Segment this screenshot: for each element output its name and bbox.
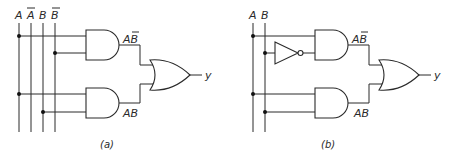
circuit-a: A A B B AB AB y (a) [14, 8, 212, 150]
junction-dot [251, 34, 255, 38]
junction-dot [53, 51, 57, 55]
junction-dot [263, 51, 267, 55]
or-gate [379, 60, 419, 90]
wire-and2-to-or [119, 84, 155, 103]
junction-dot [17, 92, 21, 96]
input-label-a: A [14, 9, 23, 22]
logic-circuit-diagram: A A B B AB AB y (a) [0, 0, 454, 158]
junction-dot [41, 110, 45, 114]
wire-and1-to-or [348, 45, 384, 65]
label-a-bbar: AB [351, 33, 367, 46]
caption-a: (a) [100, 139, 114, 150]
junction-dot [263, 110, 267, 114]
junction-dot [251, 92, 255, 96]
input-label-b-bar: B [51, 9, 59, 22]
label-ab: AB [353, 107, 369, 120]
caption-b: (b) [321, 139, 335, 150]
or-gate [150, 60, 190, 90]
output-label-y: y [204, 69, 212, 82]
label-a-bbar: AB [122, 33, 138, 46]
and-gate-2 [315, 88, 348, 118]
circuit-b: A B AB AB y (b) [248, 9, 441, 150]
wire-and2-to-or [348, 84, 384, 103]
input-label-a: A [248, 9, 257, 22]
not-bubble [298, 51, 303, 56]
junction-dot [17, 34, 21, 38]
wire-and1-to-or [119, 45, 155, 65]
and-gate-1 [86, 30, 119, 60]
and-gate-2 [86, 88, 119, 118]
input-label-a-bar: A [26, 9, 35, 22]
input-label-b: B [261, 9, 269, 22]
not-gate [275, 42, 298, 64]
output-label-y: y [433, 69, 441, 82]
label-ab: AB [122, 107, 138, 120]
input-label-b: B [39, 9, 47, 22]
and-gate-1 [315, 30, 348, 60]
